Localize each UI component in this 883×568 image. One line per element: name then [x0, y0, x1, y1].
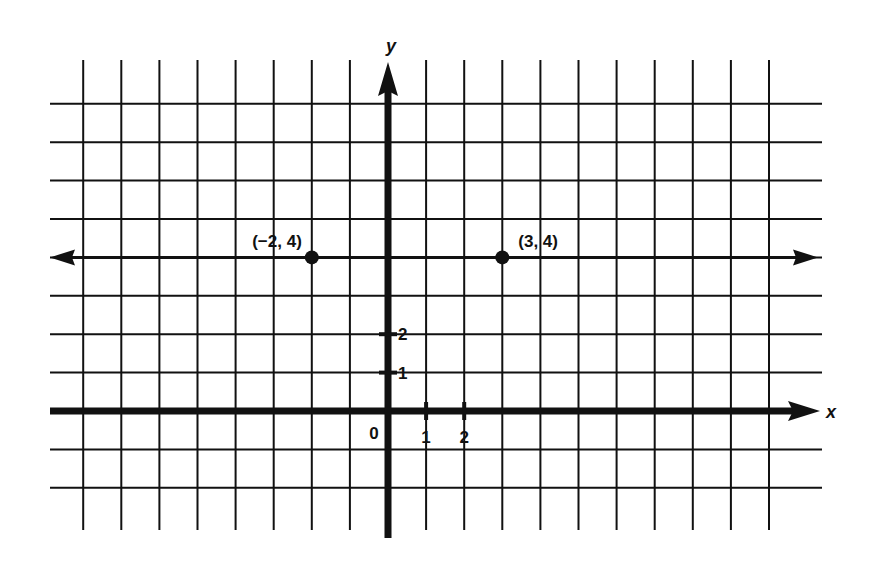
point-marker	[495, 250, 509, 264]
origin-label: 0	[369, 424, 378, 443]
grid	[50, 60, 822, 530]
point-label: (3, 4)	[518, 232, 558, 251]
y-tick-label: 1	[398, 364, 407, 383]
x-tick-label: 2	[459, 428, 468, 447]
x-axis-label: x	[825, 402, 837, 422]
point-label: (−2, 4)	[252, 232, 302, 251]
axes	[50, 62, 820, 538]
horizontal-line-y4	[50, 249, 818, 265]
arrow-right-icon	[793, 249, 818, 265]
point-marker	[305, 250, 319, 264]
x-tick-label: 1	[421, 428, 430, 447]
arrow-left-icon	[50, 249, 75, 265]
y-tick-label: 2	[398, 325, 407, 344]
y-axis-arrow-icon	[378, 62, 398, 96]
ticks	[379, 334, 464, 420]
coordinate-plane-figure: x y 0 1 2 1 2 (−2, 4) (3, 4)	[0, 0, 883, 568]
y-axis-label: y	[385, 36, 397, 56]
coordinate-plane-svg: x y 0 1 2 1 2 (−2, 4) (3, 4)	[0, 0, 883, 568]
